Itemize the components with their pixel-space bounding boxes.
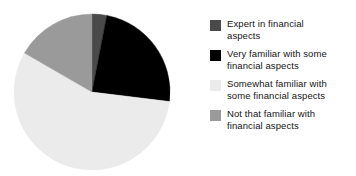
legend-swatch-not-familiar xyxy=(210,110,221,121)
legend-item-very-familiar[interactable]: Very familiar with some financial aspect… xyxy=(210,48,356,71)
legend-item-somewhat-familiar[interactable]: Somewhat familiar with some financial as… xyxy=(210,78,356,101)
legend-label-somewhat-familiar: Somewhat familiar with some financial as… xyxy=(227,78,327,101)
pie-slice-group xyxy=(14,14,170,170)
legend-item-expert[interactable]: Expert in financial aspects xyxy=(210,18,356,41)
legend-swatch-very-familiar xyxy=(210,50,221,61)
legend-swatch-expert xyxy=(210,20,221,31)
legend-label-expert: Expert in financial aspects xyxy=(227,18,304,41)
legend-item-not-familiar[interactable]: Not that familiar with financial aspects xyxy=(210,108,356,131)
legend-label-not-familiar: Not that familiar with financial aspects xyxy=(227,108,315,131)
pie-chart-svg xyxy=(0,0,200,176)
legend-label-very-familiar: Very familiar with some financial aspect… xyxy=(227,48,327,71)
chart-legend: Expert in financial aspects Very familia… xyxy=(210,18,356,138)
pie-chart-plot-area xyxy=(0,0,200,176)
pie-chart-figure: Expert in financial aspects Very familia… xyxy=(0,0,356,176)
legend-swatch-somewhat-familiar xyxy=(210,80,221,91)
